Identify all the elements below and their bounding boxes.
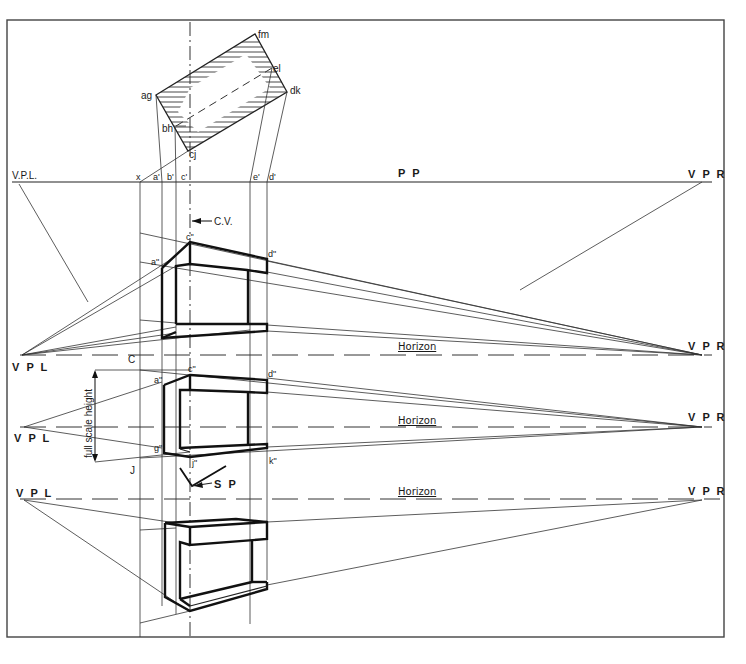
label-ag: ag xyxy=(141,90,152,101)
tick-x: x xyxy=(136,172,141,182)
tick-d: d' xyxy=(269,172,276,182)
drawing-frame xyxy=(7,20,724,637)
view-below-horizon: V P L V P R Horizon xyxy=(16,485,727,623)
label-fm: fm xyxy=(258,29,269,40)
label-pp: P P xyxy=(398,167,422,179)
tick-c: c' xyxy=(181,172,188,182)
label-vpl-3: V P L xyxy=(16,487,53,499)
label-full-scale-height: full scale height xyxy=(83,389,94,458)
view-eye-level: V P L V P R Horizon J full scale height … xyxy=(14,364,727,476)
label-vpl-pp: V.P.L. xyxy=(12,170,37,181)
label-c: C xyxy=(128,354,135,365)
label-horizon-2: Horizon xyxy=(398,415,436,426)
view-above-horizon: V P L V P R Horizon C c" a" d" xyxy=(12,232,727,373)
label-g2-2: g" xyxy=(154,443,162,453)
label-horizon-1: Horizon xyxy=(398,341,436,352)
label-vpr-2: V P R xyxy=(688,411,727,423)
label-horizon-3: Horizon xyxy=(398,486,436,497)
label-j: J xyxy=(130,465,135,476)
plan-view: ag bh cj dk el fm xyxy=(141,29,302,160)
label-vpl-1: V P L xyxy=(12,361,49,373)
label-vpr-pp: V P R xyxy=(688,168,727,180)
label-c2-1: c" xyxy=(186,232,194,242)
label-vpr-3: V P R xyxy=(688,485,727,497)
perspective-drawing: ag bh cj dk el fm V.P.L. P P V P R x a' … xyxy=(0,0,746,664)
label-dk: dk xyxy=(290,85,302,96)
label-sp: S P xyxy=(214,478,238,490)
label-a2-2: a" xyxy=(154,375,162,385)
label-el: el xyxy=(273,63,281,74)
label-d2-1: d" xyxy=(268,249,276,259)
label-j2-2: j" xyxy=(191,458,197,468)
label-k2-2: k" xyxy=(269,456,277,466)
vpl-sight-line xyxy=(19,184,88,302)
vpr-sight-line xyxy=(520,182,702,290)
label-a2-1: a" xyxy=(151,257,159,267)
label-cv: C.V. xyxy=(214,216,233,227)
tick-b: b' xyxy=(167,172,174,182)
label-vpr-1: V P R xyxy=(688,340,727,352)
label-c2-2: c" xyxy=(188,364,196,374)
cv-arrow xyxy=(192,218,212,224)
label-vpl-2: V P L xyxy=(14,432,51,444)
tick-e: e' xyxy=(253,172,260,182)
label-bh: bh xyxy=(162,123,173,134)
tick-a: a' xyxy=(153,172,160,182)
label-d2-2: d" xyxy=(268,369,276,379)
